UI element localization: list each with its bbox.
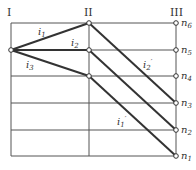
ratio-label-i3: i3	[26, 59, 34, 72]
node-I	[9, 48, 14, 53]
ratio-lines	[11, 23, 176, 156]
ratio-label-i1: i1	[38, 26, 46, 39]
ratio-label-i2-prime: i2′	[143, 58, 153, 72]
grid	[11, 23, 176, 156]
speed-diagram: I II III n6 n5 n4 n3 n2 n1 i1 i2 i3 i2′ …	[0, 0, 196, 170]
node-II-top	[87, 21, 92, 26]
node-n5	[174, 48, 179, 53]
node-n3	[174, 101, 179, 106]
node-n1	[174, 154, 179, 159]
speed-label-n5: n5	[181, 44, 192, 57]
speed-label-n2: n2	[181, 124, 192, 137]
node-II-low	[87, 74, 92, 79]
ratio-label-i2: i2	[71, 37, 79, 50]
ray-II-to-n1	[89, 76, 176, 156]
speed-label-n4: n4	[181, 70, 192, 83]
node-II-mid	[87, 48, 92, 53]
ratio-label-i1-prime: i1′	[117, 115, 127, 129]
speed-label-n3: n3	[181, 97, 192, 110]
column-label-I: I	[7, 6, 11, 19]
node-n6	[174, 21, 179, 26]
ray-i3	[11, 50, 89, 76]
speed-label-n6: n6	[181, 17, 192, 30]
column-label-II: II	[84, 6, 93, 19]
speed-chart-svg: I II III n6 n5 n4 n3 n2 n1 i1 i2 i3 i2′ …	[0, 0, 196, 170]
node-n4	[174, 74, 179, 79]
node-n2	[174, 128, 179, 133]
speed-label-n1: n1	[181, 150, 192, 163]
